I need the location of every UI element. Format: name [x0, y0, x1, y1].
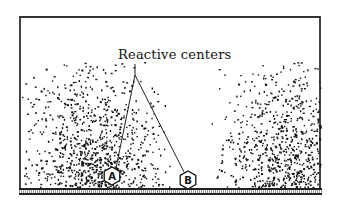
substrate-surface: [19, 188, 322, 195]
leader-line-a: [116, 75, 135, 168]
center-a-label: A: [108, 171, 116, 182]
reactive-center-b: B: [180, 171, 196, 189]
reactive-center-a: A: [104, 167, 120, 185]
reactive-centers-label: Reactive centers: [118, 47, 231, 62]
leader-line-b: [135, 75, 184, 172]
leader-lines: A B: [0, 0, 339, 204]
center-b-label: B: [184, 175, 192, 186]
reaction-diagram: A B Reactive centers: [0, 0, 339, 204]
